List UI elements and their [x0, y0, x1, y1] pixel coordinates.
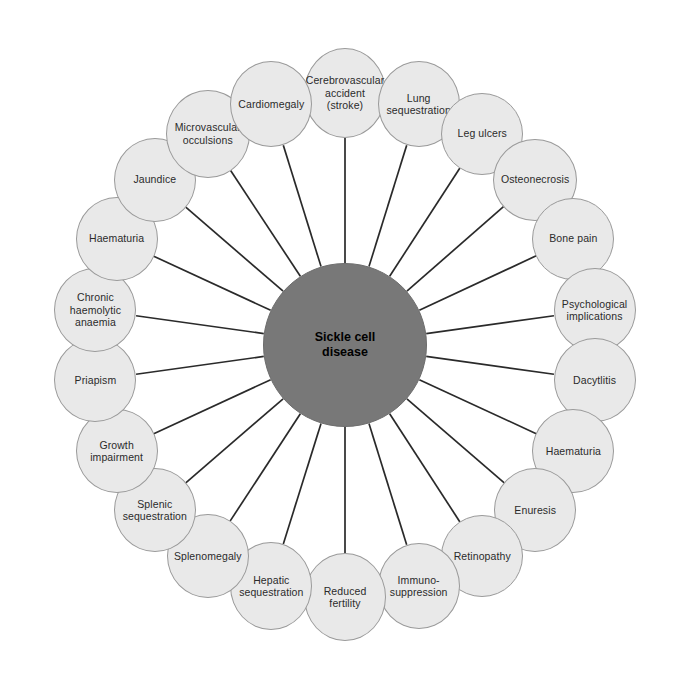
- node-label: Chronic haemolytic anaemia: [65, 291, 126, 328]
- node-label: Enuresis: [509, 504, 561, 516]
- node-growth-impairment[interactable]: Growth impairment: [76, 409, 158, 493]
- node-label: Priapism: [70, 374, 122, 386]
- node-label: Lung sequestration: [382, 92, 456, 117]
- node-label: Bone pain: [544, 232, 602, 244]
- node-chronic-haemolytic-anaemia[interactable]: Chronic haemolytic anaemia: [54, 268, 136, 352]
- node-cardiomegaly[interactable]: Cardiomegaly: [230, 61, 312, 147]
- node-reduced-fertility[interactable]: Reduced fertility: [304, 553, 386, 641]
- node-label: Cerebrovascular accident (stroke): [301, 74, 390, 111]
- node-label: Haematuria: [541, 445, 606, 457]
- spoke-line: [426, 316, 554, 334]
- node-label: Psychological implications: [557, 298, 633, 323]
- node-label: Splenomegaly: [169, 550, 247, 562]
- radial-diagram: Cerebrovascular accident (stroke)Lung se…: [0, 0, 690, 688]
- node-label: Osteonecrosis: [496, 173, 574, 185]
- spoke-line: [426, 356, 554, 374]
- node-immuno-suppression[interactable]: Immuno- suppression: [378, 543, 460, 629]
- node-label: Dacytlitis: [568, 374, 621, 386]
- spoke-line: [283, 423, 321, 543]
- node-label: Retinopathy: [449, 550, 516, 562]
- spoke-line: [390, 414, 460, 522]
- node-label: Immuno- suppression: [385, 574, 453, 599]
- center-node-label: Sickle cell disease: [310, 330, 380, 360]
- node-bone-pain[interactable]: Bone pain: [532, 198, 614, 280]
- node-label: Haematuria: [84, 232, 149, 244]
- spoke-line: [283, 145, 321, 266]
- spoke-line: [390, 168, 460, 276]
- spoke-line: [231, 171, 301, 277]
- node-label: Jaundice: [128, 173, 181, 185]
- node-label: Cardiomegaly: [233, 98, 309, 110]
- node-label: Splenic sequestration: [118, 498, 192, 523]
- node-label: Reduced fertility: [319, 585, 372, 610]
- spoke-line: [136, 316, 264, 334]
- spoke-line: [136, 356, 264, 374]
- node-cerebrovascular-accident-stroke[interactable]: Cerebrovascular accident (stroke): [304, 48, 386, 138]
- center-node-sickle-cell-disease[interactable]: Sickle cell disease: [263, 263, 427, 427]
- node-label: Hepatic sequestration: [234, 574, 308, 599]
- spoke-line: [369, 423, 407, 544]
- spoke-line: [369, 145, 407, 266]
- node-label: Growth impairment: [85, 439, 148, 464]
- spoke-line: [230, 414, 300, 521]
- node-label: Leg ulcers: [453, 127, 512, 139]
